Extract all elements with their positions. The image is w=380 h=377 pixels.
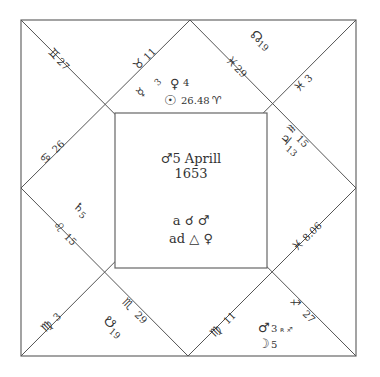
cusp-1-degree: 3	[302, 72, 314, 84]
moon-degree: 5	[271, 339, 277, 350]
cusp-5: ♍ 11	[207, 308, 239, 340]
cusp-4-degree: 27	[300, 308, 317, 325]
aries-icon: ♈	[212, 94, 222, 107]
cusp-6: ♏ 29	[119, 295, 151, 327]
planet-sun: ☉ 26.48 ♈	[164, 92, 222, 108]
venus-icon: ♀	[170, 76, 180, 91]
mercury-icon: ☿	[133, 84, 148, 99]
cusp-11: ♉ 11	[130, 44, 159, 73]
moon-icon: ☽	[258, 336, 270, 351]
cusp-9: ♋ 26	[37, 137, 67, 167]
cusp-9-degree: 26	[50, 138, 67, 155]
cusp-6-degree: 29	[132, 309, 149, 326]
chart-title-line2: 1653	[174, 166, 207, 181]
venus-degree: 4	[183, 77, 189, 88]
planet-mercury: ☿ 3	[133, 76, 163, 100]
cusp-7-degree: 3	[51, 311, 63, 323]
cusp-10: ♊ 27	[45, 45, 73, 73]
scorpio-icon: ♏	[119, 295, 137, 313]
planet-saturn: ♄ 5	[69, 199, 92, 222]
leo-icon: ♌	[50, 218, 68, 236]
planet-south-node: ☋ 19	[99, 313, 128, 341]
mercury-degree: 3	[152, 76, 163, 87]
cusp-4: ♐ 27	[287, 295, 318, 326]
cusp-7: ♍ 3	[38, 309, 64, 335]
mars-degree: 3	[271, 323, 277, 334]
sun-degree: 26.48	[181, 95, 210, 106]
aspect-line1: a ☌ ♂	[173, 213, 210, 228]
cusp-3: ♓ 8.06	[289, 218, 325, 254]
planet-venus: ♀ 4	[170, 76, 189, 91]
planet-moon: ☽ 5	[258, 336, 277, 351]
virgo-icon: ♍	[38, 317, 56, 335]
cancer-icon: ♋	[37, 149, 55, 167]
cusp-2-degree: 15	[294, 133, 311, 150]
sun-icon: ☉	[164, 92, 177, 108]
sagittarius-icon: ♐	[287, 295, 303, 311]
chart-title-line1: ♂5 Aprill	[161, 151, 221, 166]
retrograde-sagittarius-note: ʀ ♐	[280, 326, 293, 334]
cusp-11-degree: 11	[141, 46, 158, 63]
virgo-icon: ♍	[207, 322, 225, 340]
mars-icon: ♂	[258, 320, 270, 335]
cusp-5-degree: 11	[221, 310, 238, 327]
cusp-10-degree: 27	[55, 56, 72, 73]
aspect-line2: ad △ ♀	[169, 231, 213, 246]
cusp-1: ♓ 3	[291, 71, 315, 95]
cusp-8-degree: 15	[62, 231, 79, 248]
planet-north-node: ☊ 19	[247, 27, 275, 54]
planet-mars: ♂ 3 ʀ ♐	[258, 320, 293, 335]
horoscope-chart: ♂5 Aprill 1653 a ☌ ♂ ad △ ♀ ♊ 27 ♉ 11 ♓ …	[0, 0, 380, 377]
